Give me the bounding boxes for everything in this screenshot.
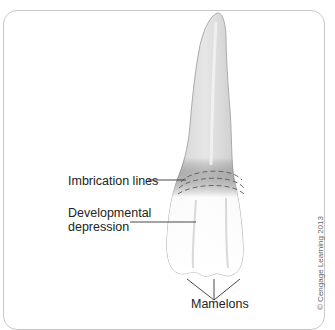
copyright-notice: © Cengage Learning 2013 [316,216,325,310]
developmental-depression-label-line2: depression [68,220,151,234]
developmental-depression-label-line1: Developmental [68,206,151,220]
mamelons-label: Mamelons [191,297,249,311]
imbrication-lines-label: Imbrication lines [68,174,158,188]
developmental-depression-label: Developmental depression [68,206,151,234]
